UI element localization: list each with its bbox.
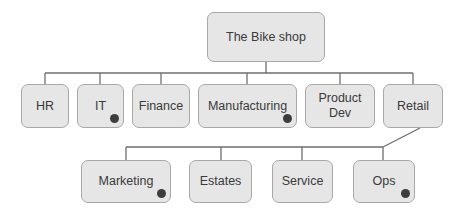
status-dot-icon	[283, 114, 292, 123]
node-hr[interactable]: HR	[21, 84, 69, 128]
status-dot-icon	[157, 189, 166, 198]
node-finance[interactable]: Finance	[132, 84, 190, 128]
node-label: Manufacturing	[208, 99, 287, 114]
node-retail[interactable]: Retail	[383, 84, 443, 128]
node-label: Product Dev	[318, 91, 361, 121]
node-label: IT	[95, 99, 106, 114]
node-label: HR	[36, 99, 54, 114]
node-label: The Bike shop	[226, 30, 306, 45]
node-label: Marketing	[99, 174, 154, 189]
node-label: Service	[282, 174, 324, 189]
status-dot-icon	[110, 114, 119, 123]
node-product-dev[interactable]: Product Dev	[305, 84, 375, 128]
node-it[interactable]: IT	[77, 84, 124, 128]
node-marketing[interactable]: Marketing	[81, 160, 171, 203]
node-label: Finance	[139, 99, 183, 114]
node-label: Estates	[200, 174, 242, 189]
node-the-bike-shop[interactable]: The Bike shop	[207, 12, 325, 62]
node-label: Ops	[373, 174, 396, 189]
node-ops[interactable]: Ops	[353, 160, 415, 203]
status-dot-icon	[401, 189, 410, 198]
node-manufacturing[interactable]: Manufacturing	[198, 84, 297, 128]
node-estates[interactable]: Estates	[189, 160, 252, 203]
node-label: Retail	[397, 99, 429, 114]
node-service[interactable]: Service	[272, 160, 333, 203]
org-chart: The Bike shop HR IT Finance Manufacturin…	[0, 0, 460, 218]
